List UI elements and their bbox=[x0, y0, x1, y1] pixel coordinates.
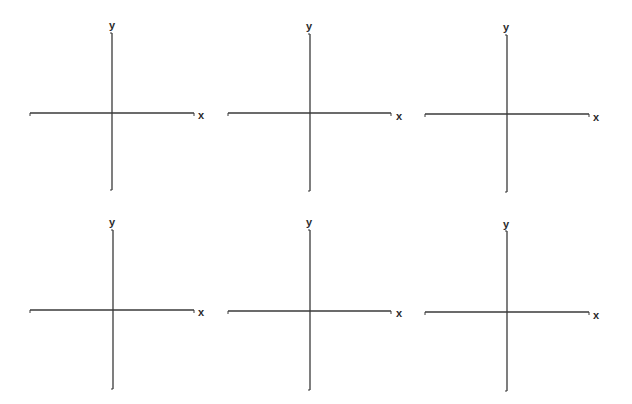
y-axis-label: y bbox=[503, 219, 509, 230]
axes-graphic bbox=[0, 0, 632, 404]
coordinate-plane-6: x y bbox=[0, 0, 200, 200]
x-axis-label: x bbox=[593, 310, 599, 321]
